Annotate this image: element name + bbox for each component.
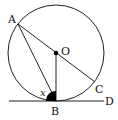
geometry-diagram: A O B C D x (0, 0, 118, 120)
label-c: C (95, 83, 103, 96)
label-angle-x: x (40, 87, 46, 98)
chord-ab (18, 24, 56, 101)
label-b: B (51, 105, 59, 118)
center-point-o (54, 51, 59, 56)
angle-x-marker (46, 91, 56, 101)
label-a: A (7, 13, 17, 26)
label-o: O (61, 45, 70, 58)
label-d: D (105, 95, 114, 108)
